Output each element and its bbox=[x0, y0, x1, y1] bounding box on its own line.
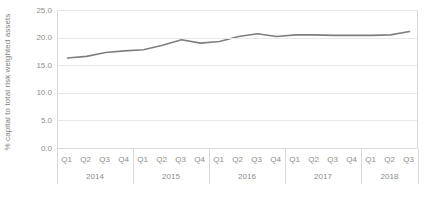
year-separator bbox=[209, 148, 210, 184]
x-axis-year-label: 2016 bbox=[209, 169, 285, 184]
plot-area bbox=[57, 10, 418, 148]
x-axis-quarter-label: Q1 bbox=[133, 152, 152, 167]
x-axis-year-label: 2017 bbox=[285, 169, 361, 184]
y-axis-tick-label: 25.0 bbox=[18, 6, 52, 15]
x-axis-quarter-label: Q2 bbox=[152, 152, 171, 167]
x-axis-quarter-label: Q2 bbox=[304, 152, 323, 167]
gridline bbox=[58, 10, 417, 11]
x-axis-year-label: 2015 bbox=[133, 169, 209, 184]
gridline bbox=[58, 38, 417, 39]
y-axis-tick-labels: 0.05.010.015.020.025.0 bbox=[18, 6, 52, 154]
x-axis-year-label: 2014 bbox=[57, 169, 133, 184]
y-axis-tick-label: 0.0 bbox=[18, 144, 52, 153]
year-separator bbox=[285, 148, 286, 184]
x-axis-quarter-label: Q4 bbox=[190, 152, 209, 167]
x-axis-year-label: 2018 bbox=[361, 169, 418, 184]
x-axis-year-labels: 20142015201620172018 bbox=[57, 169, 418, 184]
y-axis-tick-label: 10.0 bbox=[18, 88, 52, 97]
x-axis-quarter-label: Q1 bbox=[361, 152, 380, 167]
chart-container: % capital to total risk weighted assets … bbox=[0, 0, 439, 211]
gridline bbox=[58, 65, 417, 66]
x-axis-quarter-label: Q4 bbox=[266, 152, 285, 167]
x-axis-quarter-label: Q1 bbox=[209, 152, 228, 167]
x-axis-quarter-labels: Q1Q2Q3Q4Q1Q2Q3Q4Q1Q2Q3Q4Q1Q2Q3Q4Q1Q2Q3 bbox=[57, 152, 418, 167]
y-axis-tick-label: 5.0 bbox=[18, 116, 52, 125]
y-axis-title: % capital to total risk weighted assets bbox=[1, 7, 15, 157]
series-line-capital-ratio bbox=[68, 32, 410, 58]
x-axis-quarter-label: Q1 bbox=[285, 152, 304, 167]
gridline bbox=[58, 120, 417, 121]
x-axis-quarter-label: Q2 bbox=[76, 152, 95, 167]
axis-bound-separator bbox=[418, 148, 419, 184]
series-line-chart bbox=[58, 10, 419, 148]
x-axis: Q1Q2Q3Q4Q1Q2Q3Q4Q1Q2Q3Q4Q1Q2Q3Q4Q1Q2Q3 2… bbox=[57, 148, 418, 194]
y-axis-tick-label: 20.0 bbox=[18, 33, 52, 42]
y-axis-tick-label: 15.0 bbox=[18, 61, 52, 70]
year-separator bbox=[133, 148, 134, 184]
x-axis-quarter-label: Q3 bbox=[171, 152, 190, 167]
x-axis-quarter-label: Q2 bbox=[380, 152, 399, 167]
gridline bbox=[58, 93, 417, 94]
x-axis-quarter-label: Q3 bbox=[247, 152, 266, 167]
x-axis-quarter-label: Q3 bbox=[323, 152, 342, 167]
x-axis-quarter-label: Q3 bbox=[95, 152, 114, 167]
x-axis-quarter-label: Q4 bbox=[114, 152, 133, 167]
axis-bound-separator bbox=[57, 148, 58, 184]
x-axis-quarter-label: Q4 bbox=[342, 152, 361, 167]
x-axis-quarter-label: Q2 bbox=[228, 152, 247, 167]
year-separator bbox=[361, 148, 362, 184]
x-axis-quarter-label: Q3 bbox=[399, 152, 418, 167]
x-axis-quarter-label: Q1 bbox=[57, 152, 76, 167]
